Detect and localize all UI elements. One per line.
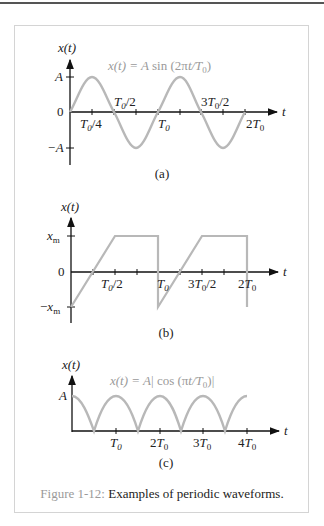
xtick-c-4T0: 4T0 — [238, 435, 257, 452]
equation-c: x(t) = A| cos (πt/T0)| — [109, 373, 214, 390]
xtick-2T0: 2T0 — [246, 116, 265, 133]
ylabel-a: x(t) — [57, 40, 76, 55]
ytick-0: 0 — [57, 104, 64, 119]
figure-svg: x(t) t A 0 −A T0/4 T0/2 T0 3T0/2 2T0 x(t… — [0, 0, 324, 526]
panel-b: x(t) t xm 0 −xm T0/2 T0 3T0/2 2T0 (b) — [40, 199, 287, 340]
ytick-0-b: 0 — [58, 264, 65, 279]
ylabel-c: x(t) — [61, 357, 80, 372]
xtick-b-3T0-2: 3T0/2 — [188, 276, 216, 293]
rectified-cosine-wave — [72, 396, 247, 431]
figure-caption: Figure 1-12: Examples of periodic wavefo… — [0, 486, 324, 502]
xtick-c-2T0: 2T0 — [150, 435, 169, 452]
ytick-xm: xm — [46, 228, 60, 245]
xtick-c-T0: T0 — [110, 435, 122, 452]
ylabel-b: x(t) — [60, 199, 79, 214]
xlabel-a: t — [282, 104, 286, 119]
ytick-negxm: −xm — [40, 299, 60, 316]
xtick-b-T0-2: T0/2 — [101, 276, 123, 293]
panel-c: x(t) t A T0 2T0 3T0 4T0 x(t) = A| cos (π… — [58, 357, 288, 470]
caption-label: Figure 1-12: — [40, 486, 105, 501]
xtick-T0: T0 — [158, 116, 170, 133]
xtick-b-2T0: 2T0 — [238, 276, 257, 293]
xtick-3T0-2: 3T0/2 — [201, 94, 229, 111]
xtick-b-T0: T0 — [157, 276, 169, 293]
ytick-negA: −A — [47, 140, 64, 155]
xlabel-b: t — [283, 264, 287, 279]
panel-label-a: (a) — [155, 166, 169, 181]
caption-text: Examples of periodic waveforms. — [105, 486, 284, 501]
panel-label-c: (c) — [159, 455, 173, 470]
xlabel-c: t — [284, 423, 288, 438]
ytick-A-c: A — [58, 388, 67, 403]
panel-label-b: (b) — [158, 325, 173, 340]
xtick-T0-4: T0/4 — [80, 116, 102, 133]
panel-a: x(t) t A 0 −A T0/4 T0/2 T0 3T0/2 2T0 x(t… — [47, 40, 286, 181]
xtick-c-3T0: 3T0 — [193, 435, 212, 452]
ytick-A: A — [54, 69, 63, 84]
equation-a: x(t) = A sin (2πt/T0) — [107, 58, 211, 75]
xtick-T0-2: T0/2 — [114, 94, 136, 111]
